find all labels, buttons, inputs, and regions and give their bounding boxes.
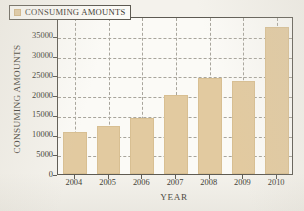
bar-2005 <box>97 126 121 174</box>
x-axis-tick-label: 2010 <box>256 178 296 187</box>
gridline-horizontal <box>58 77 292 78</box>
x-axis-title: YEAR <box>55 192 293 202</box>
x-axis-tick-mark <box>276 175 277 179</box>
bar-2008 <box>198 78 222 174</box>
y-axis-tick-label: 30000 <box>7 52 53 60</box>
bar-2009 <box>232 81 256 174</box>
x-axis-tick-mark <box>209 175 210 179</box>
legend-label-consuming-amounts: CONSUMING AMOUNTS <box>25 7 125 17</box>
gridline-horizontal <box>58 58 292 59</box>
bar-2006 <box>130 118 154 174</box>
x-axis-tick-mark <box>175 175 176 179</box>
y-axis-tick-label: 25000 <box>7 72 53 80</box>
figure-canvas: CONSUMING AMOUNTS YEAR 05000100001500020… <box>0 0 304 211</box>
y-axis-tick-label: 20000 <box>7 92 53 100</box>
gridline-horizontal <box>58 38 292 39</box>
bar-2010 <box>265 27 289 174</box>
bar-2007 <box>164 95 188 174</box>
x-axis-tick-mark <box>108 175 109 179</box>
x-axis-tick-mark <box>74 175 75 179</box>
plot-area <box>57 17 293 175</box>
y-axis-tick-label: 10000 <box>7 131 53 139</box>
y-axis-tick-label: 15000 <box>7 111 53 119</box>
bar-2004 <box>63 132 87 174</box>
y-axis-tick-label: 5000 <box>7 151 53 159</box>
chart-legend: CONSUMING AMOUNTS <box>9 5 131 20</box>
x-axis-tick-mark <box>141 175 142 179</box>
y-axis-tick-label: 35000 <box>7 32 53 40</box>
x-axis-tick-mark <box>242 175 243 179</box>
y-axis-tick-label: 0 <box>7 171 53 179</box>
y-axis-tick-mark <box>53 175 57 176</box>
legend-swatch-consuming-amounts <box>14 9 21 16</box>
